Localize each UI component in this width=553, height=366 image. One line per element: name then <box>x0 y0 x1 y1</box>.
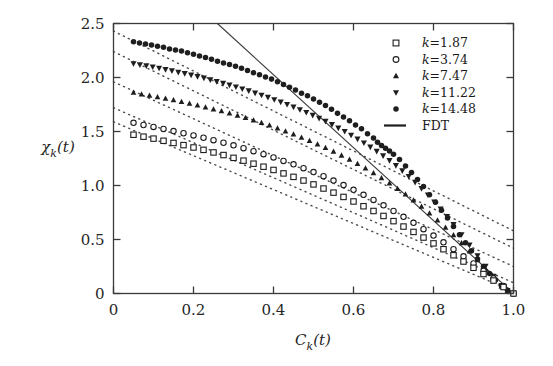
data-point <box>267 122 273 127</box>
data-point <box>131 90 137 95</box>
data-point <box>339 152 345 157</box>
data-point <box>179 48 185 54</box>
data-point <box>461 254 466 259</box>
data-point <box>335 110 341 116</box>
data-point <box>195 102 201 107</box>
data-point <box>353 122 359 128</box>
data-point <box>246 88 252 94</box>
data-point <box>161 126 166 131</box>
data-point <box>151 124 156 129</box>
data-point <box>147 93 153 98</box>
data-point <box>291 174 296 179</box>
y-tick-label: 1.5 <box>81 123 105 141</box>
data-point <box>211 150 216 155</box>
data-point <box>251 148 256 153</box>
data-point <box>151 136 156 141</box>
data-point <box>175 70 181 76</box>
data-point <box>271 155 276 160</box>
data-point <box>221 140 226 145</box>
data-point <box>235 112 241 117</box>
data-point <box>371 170 377 175</box>
data-point <box>265 95 271 101</box>
data-point <box>471 265 476 270</box>
x-tick-label: 0.4 <box>262 301 286 319</box>
data-point <box>150 64 156 70</box>
data-point <box>321 186 326 191</box>
data-point <box>427 210 433 215</box>
data-point <box>137 62 143 68</box>
data-point <box>323 145 329 150</box>
data-point <box>393 163 399 169</box>
legend-label: k=14.48 <box>422 101 476 116</box>
data-point <box>143 41 149 47</box>
data-point <box>191 52 197 58</box>
data-point <box>281 82 287 88</box>
data-point <box>311 96 317 102</box>
data-point <box>351 199 356 204</box>
data-point <box>185 50 191 56</box>
data-point <box>271 167 276 172</box>
data-point <box>371 197 376 202</box>
data-point <box>163 96 169 101</box>
data-point <box>435 217 441 222</box>
data-point <box>231 143 236 148</box>
data-point <box>406 174 412 180</box>
data-point <box>259 120 265 125</box>
data-point <box>131 132 136 137</box>
data-point <box>305 93 311 99</box>
data-point <box>156 66 162 72</box>
data-point <box>179 99 185 104</box>
y-tick-label: 0.5 <box>81 231 105 249</box>
data-point <box>287 84 293 90</box>
data-point <box>323 103 329 109</box>
data-point <box>239 66 245 72</box>
data-point <box>361 204 366 209</box>
data-point <box>275 79 281 85</box>
data-point <box>161 45 167 51</box>
legend-label: k=11.22 <box>422 85 476 100</box>
data-point <box>161 138 166 143</box>
data-point <box>162 67 168 73</box>
data-point <box>367 145 373 151</box>
data-point <box>137 40 143 46</box>
data-point <box>335 126 341 132</box>
data-point <box>397 157 403 163</box>
x-tick-label: 0.8 <box>422 301 446 319</box>
data-point <box>421 235 426 240</box>
data-point <box>329 107 335 113</box>
data-point <box>220 81 226 87</box>
data-point <box>401 224 406 229</box>
data-point <box>169 68 175 74</box>
y-axis-title-tail: (t) <box>57 138 75 156</box>
data-point <box>214 79 220 85</box>
data-point <box>141 134 146 139</box>
data-point <box>271 97 277 103</box>
data-point <box>403 163 409 169</box>
y-tick-label: 1.0 <box>81 177 105 195</box>
data-point <box>278 100 284 106</box>
data-point <box>329 122 335 128</box>
data-point <box>354 137 360 143</box>
data-point <box>374 149 380 155</box>
data-point <box>291 162 296 167</box>
data-point <box>342 129 348 135</box>
data-point <box>173 47 179 53</box>
x-tick-label: 0 <box>109 301 119 319</box>
data-point <box>381 213 386 218</box>
data-point <box>359 126 365 132</box>
data-point <box>181 131 186 136</box>
data-point <box>284 102 290 108</box>
data-point <box>149 42 155 48</box>
legend-marker <box>393 40 399 46</box>
x-tick-label: 0.6 <box>342 301 366 319</box>
x-tick-label: 0.2 <box>182 301 206 319</box>
data-point <box>261 151 266 156</box>
data-point <box>215 59 221 65</box>
data-point <box>167 46 173 52</box>
data-point <box>311 182 316 187</box>
data-point <box>481 271 486 276</box>
data-point <box>171 128 176 133</box>
data-point <box>171 140 176 145</box>
data-point <box>293 87 299 93</box>
data-point <box>411 229 416 234</box>
